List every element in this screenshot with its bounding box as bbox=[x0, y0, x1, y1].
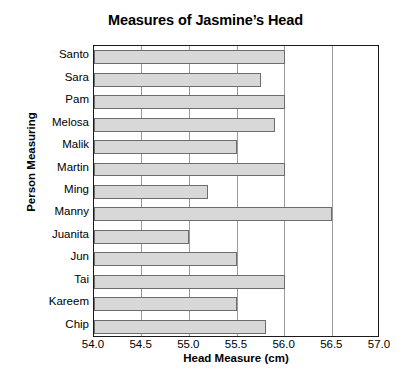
bar-melosa bbox=[94, 118, 275, 132]
bar-row bbox=[94, 275, 378, 289]
bar-kareem bbox=[94, 297, 237, 311]
bar-row bbox=[94, 163, 378, 177]
bar-sara bbox=[94, 73, 261, 87]
bar-martin bbox=[94, 163, 285, 177]
bar-jun bbox=[94, 252, 237, 266]
bar-row bbox=[94, 118, 378, 132]
bar-row bbox=[94, 252, 378, 266]
bar-row bbox=[94, 95, 378, 109]
bar-santo bbox=[94, 50, 285, 64]
bar-malik bbox=[94, 140, 237, 154]
bar-row bbox=[94, 50, 378, 64]
y-tick-label-kareem: Kareem bbox=[3, 295, 89, 307]
plot-area bbox=[93, 45, 379, 337]
bar-row bbox=[94, 320, 378, 334]
bar-row bbox=[94, 73, 378, 87]
y-tick-label-chip: Chip bbox=[3, 318, 89, 330]
bar-row bbox=[94, 297, 378, 311]
y-tick-label-martin: Martin bbox=[3, 161, 89, 173]
bar-manny bbox=[94, 207, 332, 221]
y-tick-label-malik: Malik bbox=[3, 138, 89, 150]
bar-row bbox=[94, 140, 378, 154]
y-tick-label-sara: Sara bbox=[3, 71, 89, 83]
chart-title: Measures of Jasmine’s Head bbox=[0, 12, 411, 28]
y-tick-label-manny: Manny bbox=[3, 205, 89, 217]
bar-chip bbox=[94, 320, 266, 334]
y-tick-label-juanita: Juanita bbox=[3, 228, 89, 240]
bar-pam bbox=[94, 95, 285, 109]
bars-layer bbox=[94, 46, 378, 336]
y-tick-label-santo: Santo bbox=[3, 48, 89, 60]
bar-chart: Measures of Jasmine’s Head Person Measur… bbox=[0, 0, 411, 373]
bar-tai bbox=[94, 275, 285, 289]
bar-row bbox=[94, 207, 378, 221]
y-axis-tick-labels: SantoSaraPamMelosaMalikMartinMingMannyJu… bbox=[0, 45, 89, 337]
y-tick-label-pam: Pam bbox=[3, 93, 89, 105]
y-tick-label-melosa: Melosa bbox=[3, 116, 89, 128]
y-tick-label-jun: Jun bbox=[3, 250, 89, 262]
x-axis-title: Head Measure (cm) bbox=[93, 352, 379, 364]
y-tick-label-tai: Tai bbox=[3, 273, 89, 285]
bar-ming bbox=[94, 185, 208, 199]
bar-row bbox=[94, 185, 378, 199]
y-tick-label-ming: Ming bbox=[3, 183, 89, 195]
bar-juanita bbox=[94, 230, 189, 244]
x-tick-label-57.0: 57.0 bbox=[349, 338, 409, 350]
bar-row bbox=[94, 230, 378, 244]
